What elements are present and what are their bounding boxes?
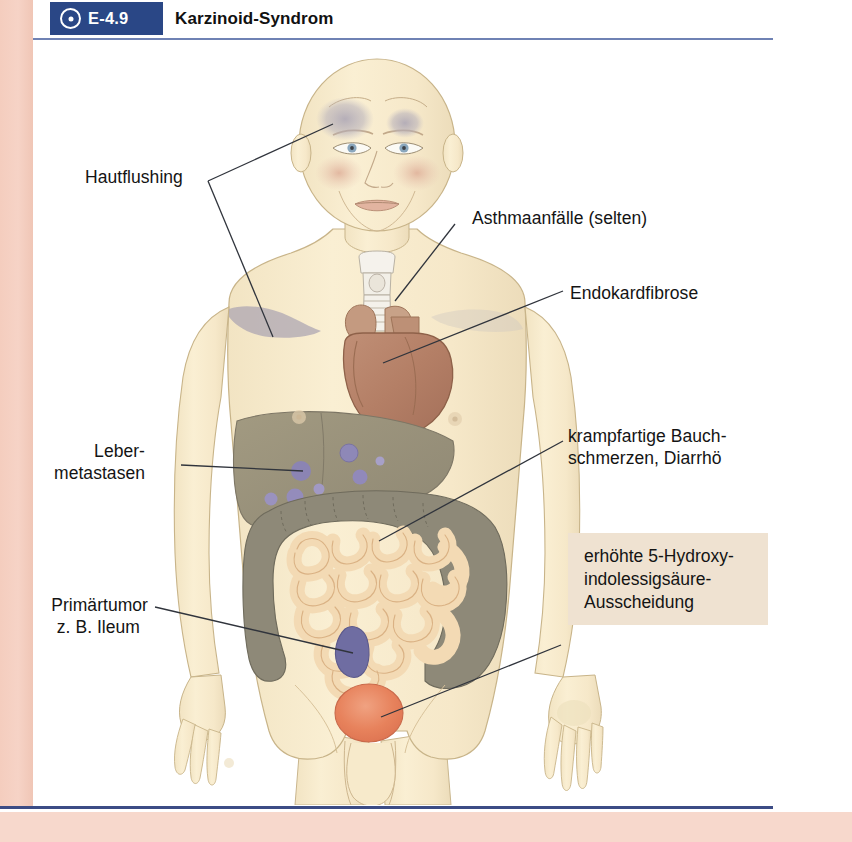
label-bauchschmerzen: krampfartige Bauch- schmerzen, Diarrhö — [568, 425, 727, 469]
figure-number-badge: E-4.9 — [50, 2, 163, 35]
footer-divider — [0, 806, 773, 809]
label-primaertumor: Primärtumor z. B. Ileum — [0, 594, 148, 638]
label-hautflushing: Hautflushing — [85, 166, 183, 188]
page-margin-strip — [0, 0, 33, 806]
body-figure — [174, 59, 603, 805]
header-divider — [33, 38, 773, 40]
hiaa-callout-box: erhöhte 5-Hydroxy- indolessigsäure- Auss… — [568, 533, 768, 625]
cheek-flush-right — [393, 155, 441, 191]
hiaa-callout-line3: Ausscheidung — [584, 591, 754, 614]
figure-header: E-4.9 Karzinoid-Syndrom — [50, 2, 773, 35]
label-lebermetastasen-line1: Leber- — [0, 440, 145, 462]
right-hand — [544, 675, 603, 791]
label-asthma: Asthmaanfälle (selten) — [472, 207, 647, 229]
page-margin-strip-bottom — [0, 812, 852, 842]
label-primaertumor-line2: z. B. Ileum — [0, 616, 148, 638]
anatomy-illustration — [33, 41, 773, 805]
label-endokardfibrose: Endokardfibrose — [570, 282, 698, 304]
bladder — [335, 684, 403, 742]
label-primaertumor-line1: Primärtumor — [0, 594, 148, 616]
cheek-flush-left — [315, 155, 363, 191]
left-hand — [174, 675, 225, 785]
anatomy-svg — [33, 41, 773, 805]
label-lebermetastasen-line2: metastasen — [0, 462, 145, 484]
hiaa-callout-line1: erhöhte 5-Hydroxy- — [584, 545, 754, 568]
label-bauchschmerzen-line1: krampfartige Bauch- — [568, 425, 727, 447]
forehead-flush-patch-left — [316, 97, 374, 141]
page-title: Karzinoid-Syndrom — [175, 2, 334, 35]
figure-number-label: E-4.9 — [88, 9, 128, 28]
target-dot-icon — [60, 8, 81, 29]
ileum-tumor — [335, 627, 369, 678]
label-lebermetastasen: Leber- metastasen — [0, 440, 145, 484]
hiaa-callout-line2: indolessigsäure- — [584, 568, 754, 591]
forehead-flush-patch-right — [386, 108, 424, 138]
label-bauchschmerzen-line2: schmerzen, Diarrhö — [568, 447, 727, 469]
